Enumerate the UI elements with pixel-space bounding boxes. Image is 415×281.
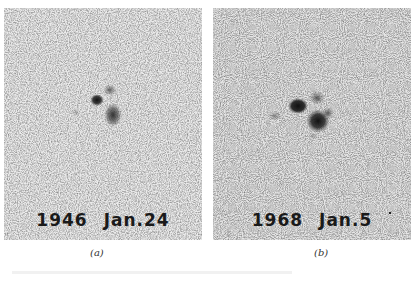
photo-panel-b: 1968Jan.5 bbox=[213, 8, 411, 240]
panel-date-label: 1946Jan.24 bbox=[4, 210, 202, 230]
subfigure-caption-a: (a) bbox=[90, 247, 104, 258]
grain-texture bbox=[213, 8, 411, 240]
subfigure-caption-b: (b) bbox=[314, 247, 328, 258]
grain-texture bbox=[4, 8, 202, 240]
panel-day: Jan.24 bbox=[104, 210, 170, 230]
figure: 1946Jan.24 bbox=[0, 0, 415, 281]
panel-date-label: 1968Jan.5 bbox=[213, 210, 411, 230]
photo-panel-a: 1946Jan.24 bbox=[4, 8, 202, 240]
panel-day: Jan.5 bbox=[319, 210, 372, 230]
panel-year: 1968 bbox=[252, 210, 303, 230]
plate-speck bbox=[389, 212, 391, 214]
panel-year: 1946 bbox=[36, 210, 87, 230]
faded-text-line bbox=[12, 271, 292, 274]
